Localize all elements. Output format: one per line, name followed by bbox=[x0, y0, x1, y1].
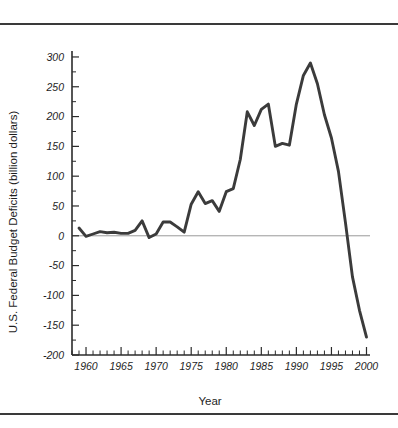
x-tick-label: 1985 bbox=[250, 360, 274, 372]
x-tick-labels: 196019651970197519801985199019952000 bbox=[74, 360, 378, 372]
chart-figure: -200-150-100-50050100150200250300 196019… bbox=[0, 26, 398, 411]
top-divider-rule bbox=[0, 23, 398, 25]
y-tick-label: -200 bbox=[43, 349, 64, 361]
y-tick-label: 100 bbox=[46, 170, 64, 182]
y-tick-label: 150 bbox=[46, 140, 64, 152]
y-tick-label: -50 bbox=[49, 259, 64, 271]
y-tick-label: 0 bbox=[58, 230, 64, 242]
y-tick-label: 50 bbox=[52, 200, 64, 212]
x-axis-title: Year bbox=[198, 395, 221, 407]
line-chart: -200-150-100-50050100150200250300 196019… bbox=[0, 26, 398, 411]
figure-page: -200-150-100-50050100150200250300 196019… bbox=[0, 0, 398, 428]
x-tick-label: 1975 bbox=[180, 360, 204, 372]
x-tick-label: 1990 bbox=[285, 360, 309, 372]
y-tick-label: 250 bbox=[45, 81, 64, 93]
x-tick-label: 1995 bbox=[320, 360, 344, 372]
y-tick-label: -150 bbox=[43, 319, 64, 331]
x-tick-label: 1965 bbox=[109, 360, 133, 372]
x-tick-label: 1960 bbox=[74, 360, 98, 372]
x-tick-label: 1980 bbox=[215, 360, 239, 372]
x-tick-label: 2000 bbox=[354, 360, 379, 372]
y-tick-label: -100 bbox=[43, 289, 64, 301]
bottom-divider-rule bbox=[0, 413, 398, 415]
y-tick-label: 200 bbox=[45, 110, 64, 122]
x-tick-label: 1970 bbox=[144, 360, 168, 372]
y-axis-title: U.S. Federal Budget Deficits (billion do… bbox=[7, 111, 19, 334]
y-tick-label: 300 bbox=[46, 51, 64, 63]
